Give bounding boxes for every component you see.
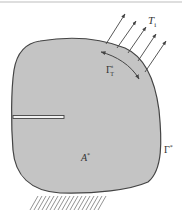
traction-label: Ti [148, 14, 156, 29]
traction-arrow [106, 14, 125, 44]
traction-arrow [117, 21, 136, 48]
crack [13, 116, 64, 119]
fixed-support-hatch [30, 196, 106, 210]
boundary-label: Γ* [164, 144, 173, 155]
traction-arrow [128, 27, 146, 53]
traction-arrow [138, 34, 156, 61]
diagram-canvas: Ti ΓtT Γ* A* [0, 0, 182, 223]
